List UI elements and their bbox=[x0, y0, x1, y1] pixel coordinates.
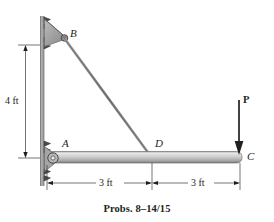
dimension-label-right: 3 ft bbox=[191, 178, 205, 188]
figure-drawing bbox=[0, 0, 274, 222]
figure-caption: Probs. 8–14/15 bbox=[0, 203, 274, 214]
dimension-vertical-4ft bbox=[18, 45, 40, 158]
pin-support-a bbox=[45, 147, 59, 172]
point-label-c: C bbox=[247, 151, 254, 162]
dimension-label-left: 3 ft bbox=[99, 178, 113, 188]
dimension-horizontal-extension-lines bbox=[47, 163, 240, 190]
point-label-d: D bbox=[155, 138, 163, 149]
wall-support bbox=[41, 16, 44, 186]
statics-figure: B A D C P 4 ft 3 ft 3 ft Probs. 8–14/15 bbox=[0, 0, 274, 222]
gusset-plate-b bbox=[45, 19, 68, 47]
load-arrow-p bbox=[235, 100, 244, 155]
diagonal-strut-bd bbox=[65, 39, 153, 159]
point-label-a: A bbox=[62, 138, 69, 149]
dimension-label-vertical: 4 ft bbox=[5, 96, 19, 106]
point-label-b: B bbox=[70, 28, 77, 39]
horizontal-beam-ac bbox=[47, 152, 242, 164]
load-label-p: P bbox=[243, 95, 249, 106]
